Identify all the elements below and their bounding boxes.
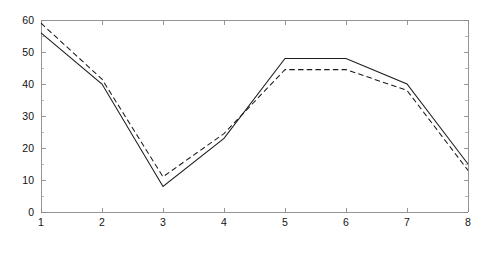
line-chart-plot: 0102030405060 12345678 [0, 0, 495, 256]
x-tick-label: 6 [343, 216, 349, 228]
y-axis-minor-ticks [41, 36, 468, 196]
x-tick-label: 4 [221, 216, 227, 228]
axes-group [41, 20, 468, 212]
x-axis-major-ticks [41, 20, 468, 212]
data-series-group [41, 23, 468, 186]
y-tick-label: 50 [22, 46, 34, 58]
y-tick-label: 40 [22, 78, 34, 90]
y-axis-major-ticks [41, 20, 468, 212]
x-tick-label: 1 [38, 216, 44, 228]
y-tick-label: 10 [22, 174, 34, 186]
y-tick-label: 0 [28, 206, 34, 218]
series-dashed-line [41, 23, 468, 177]
y-axis-tick-labels: 0102030405060 [22, 14, 34, 218]
y-tick-label: 60 [22, 14, 34, 26]
y-tick-label: 20 [22, 142, 34, 154]
x-tick-label: 3 [160, 216, 166, 228]
x-tick-label: 7 [404, 216, 410, 228]
y-tick-label: 30 [22, 110, 34, 122]
x-tick-label: 8 [465, 216, 471, 228]
x-tick-label: 5 [282, 216, 288, 228]
chart-figure: 0102030405060 12345678 [0, 0, 495, 256]
x-axis-tick-labels: 12345678 [38, 216, 471, 228]
series-solid-line [41, 33, 468, 187]
x-tick-label: 2 [99, 216, 105, 228]
